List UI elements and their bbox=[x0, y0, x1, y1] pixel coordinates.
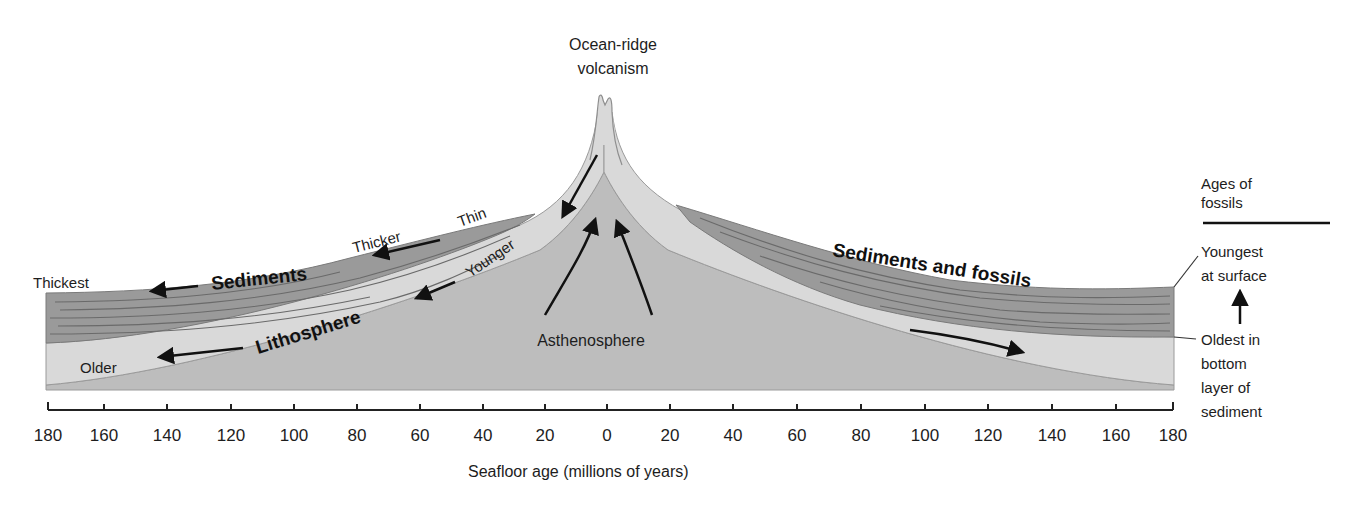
tick-label: 80 bbox=[348, 426, 367, 445]
tick-label: 100 bbox=[911, 426, 939, 445]
ocean-ridge-label-line1: Ocean-ridge bbox=[569, 36, 657, 53]
tick-label: 100 bbox=[280, 426, 308, 445]
thickest-label: Thickest bbox=[33, 274, 90, 291]
oldest-line1: Oldest in bbox=[1201, 331, 1260, 348]
seafloor-spreading-diagram: 180 160 140 120 100 80 60 40 20 0 20 40 … bbox=[0, 0, 1364, 509]
tick-label: 140 bbox=[153, 426, 181, 445]
tick-label: 160 bbox=[1102, 426, 1130, 445]
tick-label: 160 bbox=[90, 426, 118, 445]
ocean-ridge-label-line2: volcanism bbox=[577, 60, 648, 77]
tick-label: 80 bbox=[852, 426, 871, 445]
tick-label: 60 bbox=[788, 426, 807, 445]
axis-label: Seafloor age (millions of years) bbox=[468, 463, 689, 480]
ages-of-fossils-line2: fossils bbox=[1201, 194, 1243, 211]
seafloor-age-axis bbox=[48, 402, 1173, 410]
leader-youngest bbox=[1174, 256, 1198, 287]
tick-label: 60 bbox=[411, 426, 430, 445]
tick-label: 20 bbox=[536, 426, 555, 445]
youngest-line2: at surface bbox=[1201, 267, 1267, 284]
ages-of-fossils-line1: Ages of bbox=[1201, 175, 1253, 192]
tick-label: 20 bbox=[661, 426, 680, 445]
oldest-line4: sediment bbox=[1201, 403, 1263, 420]
older-label: Older bbox=[80, 359, 117, 376]
oldest-line3: layer of bbox=[1201, 379, 1251, 396]
leader-oldest bbox=[1174, 337, 1196, 339]
oldest-line2: bottom bbox=[1201, 355, 1247, 372]
tick-label: 140 bbox=[1038, 426, 1066, 445]
tick-label: 0 bbox=[602, 426, 611, 445]
tick-label: 120 bbox=[217, 426, 245, 445]
tick-label: 180 bbox=[1159, 426, 1187, 445]
youngest-line1: Youngest bbox=[1201, 243, 1264, 260]
tick-label: 40 bbox=[724, 426, 743, 445]
axis-tick-labels: 180 160 140 120 100 80 60 40 20 0 20 40 … bbox=[34, 426, 1187, 445]
asthenosphere-label: Asthenosphere bbox=[537, 332, 645, 349]
tick-label: 120 bbox=[974, 426, 1002, 445]
tick-label: 40 bbox=[474, 426, 493, 445]
tick-label: 180 bbox=[34, 426, 62, 445]
